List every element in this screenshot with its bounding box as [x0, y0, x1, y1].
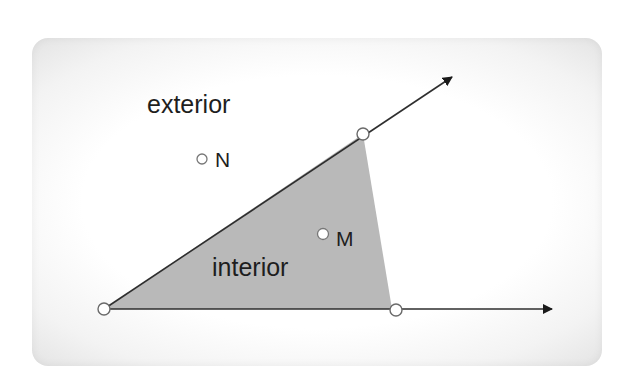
point-n-marker — [197, 154, 207, 164]
point-m-label: M — [336, 227, 354, 250]
point-m-marker — [318, 229, 329, 240]
vertex-point-upper — [357, 128, 369, 140]
vertex-point-lower — [390, 304, 402, 316]
interior-label: interior — [212, 253, 288, 281]
point-n-label: N — [215, 148, 230, 171]
angle-interior-diagram: N M exterior interior — [0, 0, 623, 387]
interior-region — [104, 134, 392, 309]
vertex-point-origin — [98, 303, 110, 315]
exterior-label: exterior — [147, 90, 230, 118]
